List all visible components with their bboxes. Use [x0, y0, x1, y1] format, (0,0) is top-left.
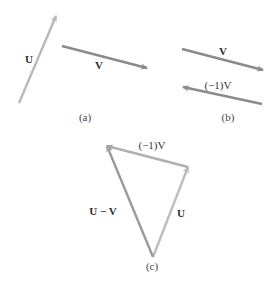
- caption-c: (c): [146, 260, 159, 273]
- vector-u-label: U: [177, 207, 185, 219]
- vector-v-arrow: [62, 46, 147, 68]
- vector-neg-v-label: (−1)V: [139, 139, 166, 152]
- vector-subtraction-diagram: U V (a) V (−1)V (b) U (−1)V U − V (c): [0, 0, 278, 286]
- vector-u-label: U: [25, 53, 33, 65]
- vector-u-minus-v-arrow: [107, 146, 153, 257]
- vector-u-minus-v-label: U − V: [89, 205, 117, 217]
- vector-v-label: V: [219, 45, 227, 57]
- vector-v-label: V: [95, 59, 103, 71]
- panel-c: U (−1)V U − V (c): [89, 139, 188, 273]
- panel-a: U V (a): [19, 16, 147, 124]
- panel-b: V (−1)V (b): [182, 45, 263, 124]
- caption-a: (a): [79, 111, 92, 124]
- caption-b: (b): [222, 111, 235, 124]
- vector-neg-v-label: (−1)V: [205, 79, 232, 92]
